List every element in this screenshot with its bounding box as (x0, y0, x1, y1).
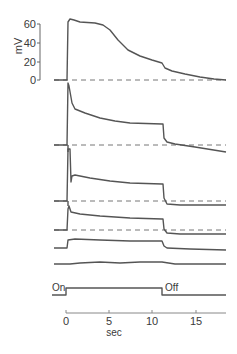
x-axis-label: sec (106, 327, 122, 338)
response-traces-chart: 60 40 20 0 mV On Off 0 5 10 15 sec (0, 0, 237, 354)
x-tick-5: 5 (106, 315, 112, 327)
stimulus-on-label: On (52, 282, 65, 293)
x-axis (66, 310, 226, 313)
x-tick-15: 15 (190, 315, 202, 327)
trace-2 (54, 83, 226, 152)
x-tick-0: 0 (63, 315, 69, 327)
y-axis-label: mV (12, 37, 24, 54)
y-tick-0: 0 (30, 74, 36, 86)
x-tick-10: 10 (146, 315, 158, 327)
stimulus-off-label: Off (165, 282, 178, 293)
y-tick-20: 20 (24, 56, 36, 68)
trace-1 (54, 19, 226, 80)
y-tick-40: 40 (24, 37, 36, 49)
stimulus-trace (52, 288, 226, 295)
trace-6 (54, 262, 226, 264)
trace-3 (54, 149, 226, 205)
trace-5 (54, 239, 226, 250)
y-axis (37, 24, 40, 80)
y-tick-60: 60 (24, 18, 36, 30)
